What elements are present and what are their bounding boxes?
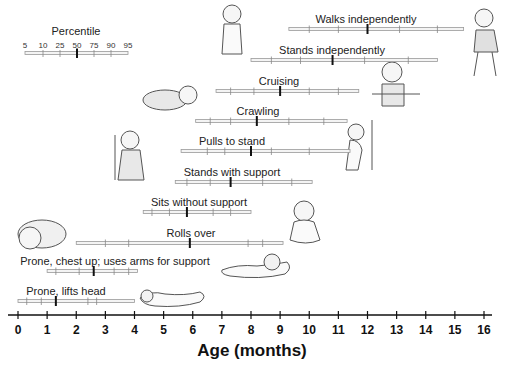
legend-title: Percentile	[52, 25, 101, 37]
x-axis-title: Age (months)	[197, 341, 307, 360]
infant-cruising-icon	[372, 62, 420, 106]
x-tick-label: 4	[131, 323, 138, 337]
milestone-range-bar	[18, 300, 135, 303]
milestone-label: Pulls to stand	[199, 135, 265, 147]
milestone-row: Cruising	[216, 75, 359, 96]
milestone-label: Stands independently	[279, 44, 385, 56]
x-tick-label: 6	[189, 323, 196, 337]
x-tick-label: 3	[102, 323, 109, 337]
x-tick-label: 8	[248, 323, 255, 337]
x-tick-label: 9	[277, 323, 284, 337]
milestone-range-bar	[216, 90, 359, 93]
milestone-range-bar	[143, 211, 251, 214]
milestone-row: Sits without support	[143, 196, 251, 217]
milestone-row: Prone, chest up; uses arms for support	[20, 255, 210, 276]
infant-standing-support-icon	[115, 131, 144, 180]
x-tick-label: 10	[303, 323, 317, 337]
milestone-label: Prone, chest up; uses arms for support	[20, 255, 210, 267]
milestone-row: Pulls to stand	[181, 135, 350, 156]
x-tick-label: 14	[419, 323, 433, 337]
milestone-range-bar	[196, 120, 347, 123]
x-tick-label: 5	[160, 323, 167, 337]
infant-prone-lifts-head-icon	[140, 290, 204, 307]
infant-crawling-icon	[143, 86, 197, 110]
x-tick-label: 15	[448, 323, 462, 337]
infant-walking-icon	[474, 9, 498, 76]
x-tick-label: 1	[44, 323, 51, 337]
infant-pulls-to-stand-icon	[346, 120, 372, 170]
milestone-label: Rolls over	[167, 227, 216, 239]
x-tick-label: 11	[332, 323, 345, 337]
milestone-row: Stands independently	[251, 44, 437, 65]
milestone-label: Walks independently	[315, 13, 417, 25]
x-tick-label: 13	[390, 323, 404, 337]
milestone-bars: Walks independentlyStands independentlyC…	[18, 13, 464, 306]
milestone-range-bar	[76, 242, 283, 245]
milestone-row: Rolls over	[76, 227, 283, 248]
legend-percentile-label: 75	[90, 41, 99, 50]
x-tick-label: 12	[361, 323, 375, 337]
legend-percentile-label: 10	[39, 41, 48, 50]
x-tick-label: 0	[15, 323, 22, 337]
milestone-row: Prone, lifts head	[18, 285, 135, 306]
legend-percentile-label: 25	[56, 41, 65, 50]
legend-percentile-label: 95	[124, 41, 133, 50]
milestone-row: Stands with support	[175, 166, 312, 187]
milestone-label: Crawling	[237, 105, 280, 117]
legend-percentile-label: 5	[23, 41, 28, 50]
milestone-label: Cruising	[259, 75, 299, 87]
milestone-range-bar	[181, 150, 350, 153]
legend-percentile-label: 90	[107, 41, 116, 50]
x-tick-label: 16	[477, 323, 491, 337]
infant-standing-independently-icon	[222, 5, 242, 54]
percentile-legend: Percentile 5102550759095	[23, 25, 133, 58]
x-tick-label: 2	[73, 323, 80, 337]
motor-milestones-chart: Percentile 5102550759095 Walks independe…	[0, 0, 505, 367]
milestone-range-bar	[251, 59, 437, 62]
milestone-label: Sits without support	[151, 196, 247, 208]
x-axis: 012345678910111213141516 Age (months)	[8, 311, 492, 360]
milestone-row: Walks independently	[289, 13, 464, 34]
milestone-row: Crawling	[196, 105, 347, 126]
infant-sitting-icon	[290, 201, 320, 243]
milestone-label: Prone, lifts head	[26, 285, 106, 297]
x-tick-label: 7	[219, 323, 226, 337]
infant-rolling-icon	[18, 220, 66, 249]
infant-prone-chest-up-icon	[222, 254, 290, 278]
milestone-label: Stands with support	[184, 166, 281, 178]
milestone-range-bar	[47, 270, 137, 273]
